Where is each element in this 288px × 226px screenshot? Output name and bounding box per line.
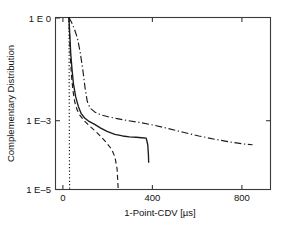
chart-figure: 1 E 0 1 E–3 1 E–5 0 400 800 1-Point-CDV … [0, 0, 288, 226]
y-tick-label-1e-3: 1 E–3 [26, 115, 51, 126]
curve-dashed [69, 18, 118, 190]
x-tick-label-800: 800 [234, 192, 250, 203]
x-tick-label-0: 0 [60, 192, 65, 203]
curve-solid [69, 18, 149, 163]
plot-frame [56, 18, 271, 190]
x-tick-label-400: 400 [144, 192, 160, 203]
data-curves [69, 18, 253, 190]
x-tickmarks [63, 18, 242, 190]
x-axis-label: 1-Point-CDV [µs] [124, 207, 195, 218]
plot-svg: 1 E 0 1 E–3 1 E–5 0 400 800 1-Point-CDV … [0, 0, 288, 226]
y-tick-label-1e0: 1 E 0 [29, 13, 51, 24]
y-axis-label: Complementary Distribution [5, 45, 16, 162]
y-tickmarks [56, 18, 271, 190]
y-tick-label-1e-5: 1 E–5 [26, 184, 51, 195]
